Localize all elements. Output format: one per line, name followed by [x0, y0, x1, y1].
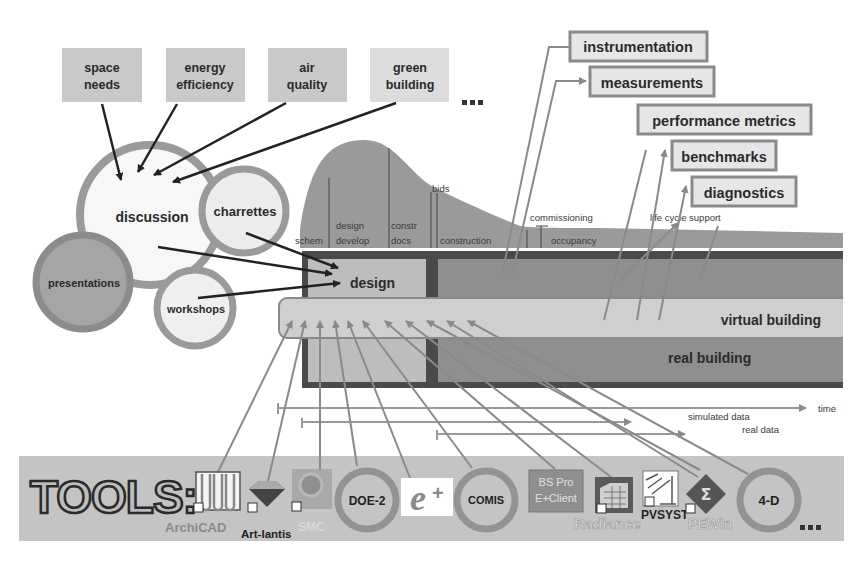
- svg-text:discussion: discussion: [115, 209, 188, 225]
- topic-box-energy-efficiency: energy efficiency: [166, 48, 245, 102]
- svg-text:workshops: workshops: [166, 303, 225, 315]
- svg-text:building: building: [386, 78, 435, 92]
- svg-text:design: design: [336, 220, 364, 231]
- svg-text:green: green: [393, 61, 427, 75]
- shortcut-icon: [686, 504, 695, 513]
- shortcut-icon: [645, 497, 654, 506]
- svg-text:ArchiCAD: ArchiCAD: [165, 520, 226, 535]
- building-lifecycle-diagram: space needs energy efficiency air qualit…: [0, 0, 865, 564]
- shortcut-icon: [194, 503, 203, 512]
- shortcut-icon: [597, 504, 606, 513]
- timeline-simulated-data-label: simulated data: [688, 411, 751, 422]
- svg-text:charrettes: charrettes: [214, 204, 277, 219]
- output-box-measurements: measurements: [590, 67, 714, 96]
- svg-text:measurements: measurements: [601, 75, 703, 91]
- tool-bspro-eplusclient[interactable]: BS Pro E+Client: [529, 470, 583, 512]
- tools-ellipsis: [800, 525, 821, 530]
- tool-4d[interactable]: 4-D: [740, 471, 798, 529]
- tool-doe2[interactable]: DOE-2: [338, 471, 396, 529]
- shortcut-icon: [292, 502, 301, 511]
- operation-block-upper: [438, 259, 843, 297]
- output-box-instrumentation: instrumentation: [570, 32, 707, 61]
- virtual-building-label: virtual building: [721, 312, 821, 328]
- svg-text:construction: construction: [440, 235, 491, 246]
- svg-text:occupancy: occupancy: [551, 235, 597, 246]
- svg-text:Radiance: Radiance: [574, 515, 641, 532]
- tools-title: TOOLS:: [30, 471, 197, 523]
- output-box-performance-metrics: performance metrics: [638, 105, 811, 134]
- svg-text:COMIS: COMIS: [468, 494, 504, 506]
- svg-text:schem: schem: [295, 235, 323, 246]
- timeline-real-data-label: real data: [742, 424, 780, 435]
- output-box-diagnostics: diagnostics: [692, 177, 796, 206]
- svg-text:commissioning: commissioning: [530, 212, 593, 223]
- svg-text:constr: constr: [391, 220, 417, 231]
- svg-text:needs: needs: [84, 78, 120, 92]
- svg-text:PEWin: PEWin: [688, 516, 732, 532]
- bubble-workshops: workshops: [157, 270, 233, 346]
- shortcut-icon: [248, 503, 257, 512]
- svg-text:air: air: [299, 61, 314, 75]
- svg-text:quality: quality: [287, 78, 327, 92]
- svg-text:diagnostics: diagnostics: [704, 185, 785, 201]
- svg-text:Art-lantis: Art-lantis: [241, 528, 291, 540]
- svg-text:instrumentation: instrumentation: [583, 39, 693, 55]
- svg-text:life cycle support: life cycle support: [650, 212, 721, 223]
- svg-text:DOE-2: DOE-2: [349, 494, 386, 508]
- svg-text:Σ: Σ: [701, 485, 712, 504]
- svg-text:SMC: SMC: [298, 520, 325, 534]
- svg-text:space: space: [84, 61, 119, 75]
- tool-energyplus[interactable]: e +: [401, 478, 453, 518]
- svg-text:performance metrics: performance metrics: [652, 113, 795, 129]
- svg-text:develop: develop: [336, 235, 369, 246]
- svg-text:BS Pro: BS Pro: [539, 476, 574, 488]
- svg-text:e: e: [410, 478, 426, 518]
- bubble-presentations: presentations: [36, 235, 130, 329]
- svg-text:energy: energy: [185, 61, 226, 75]
- topics-ellipsis: [462, 100, 483, 105]
- svg-text:efficiency: efficiency: [176, 78, 234, 92]
- topic-box-space-needs: space needs: [62, 48, 142, 102]
- svg-text:E+Client: E+Client: [535, 492, 577, 504]
- design-block-lower: [308, 338, 426, 382]
- real-building-label: real building: [668, 350, 751, 366]
- svg-text:presentations: presentations: [48, 277, 120, 289]
- timeline-time-label: time: [818, 403, 836, 414]
- topic-box-air-quality: air quality: [268, 48, 347, 102]
- design-label: design: [350, 275, 395, 291]
- svg-text:4-D: 4-D: [759, 493, 780, 508]
- svg-text:benchmarks: benchmarks: [681, 149, 766, 165]
- topic-box-green-building: green building: [370, 48, 449, 102]
- svg-text:bids: bids: [432, 183, 450, 194]
- tool-comis[interactable]: COMIS: [457, 471, 515, 529]
- output-box-benchmarks: benchmarks: [672, 141, 776, 170]
- svg-text:docs: docs: [391, 235, 411, 246]
- svg-text:PVSYST: PVSYST: [641, 508, 689, 522]
- svg-text:+: +: [432, 482, 444, 504]
- bubble-charrettes: charrettes: [202, 169, 286, 253]
